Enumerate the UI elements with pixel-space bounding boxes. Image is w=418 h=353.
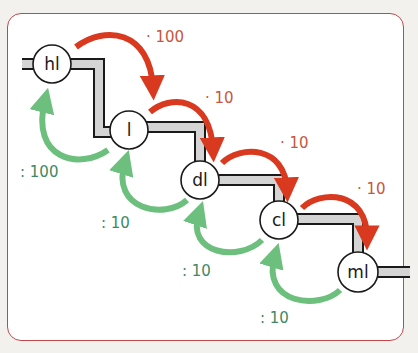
arrow-ml-to-cl: [273, 255, 340, 301]
svg-text:ml: ml: [347, 262, 368, 282]
svg-text:cl: cl: [272, 210, 286, 230]
label-up-ml-cl: : 10: [260, 309, 289, 327]
svg-text:l: l: [127, 120, 132, 140]
node-hl: hl: [33, 45, 71, 83]
label-down-cl-ml: · 10: [357, 180, 386, 198]
arrow-dl-to-l: [122, 162, 187, 210]
node-cl: cl: [260, 201, 298, 239]
node-l: l: [110, 111, 148, 149]
label-down-l-dl: · 10: [205, 89, 234, 107]
label-up-l-hl: : 100: [20, 163, 58, 181]
node-dl: dl: [181, 161, 219, 199]
unit-staircase-diagram: hl l dl cl ml · 100 · 10 · 10 · 10 : 100…: [0, 0, 418, 353]
svg-text:dl: dl: [192, 170, 208, 190]
label-up-dl-l: : 10: [101, 214, 130, 232]
svg-text:hl: hl: [44, 54, 60, 74]
label-down-dl-cl: · 10: [280, 134, 309, 152]
node-ml: ml: [338, 252, 378, 292]
arrow-cl-to-dl: [197, 213, 262, 252]
label-up-cl-dl: : 10: [182, 262, 211, 280]
label-down-hl-l: · 100: [146, 28, 184, 46]
